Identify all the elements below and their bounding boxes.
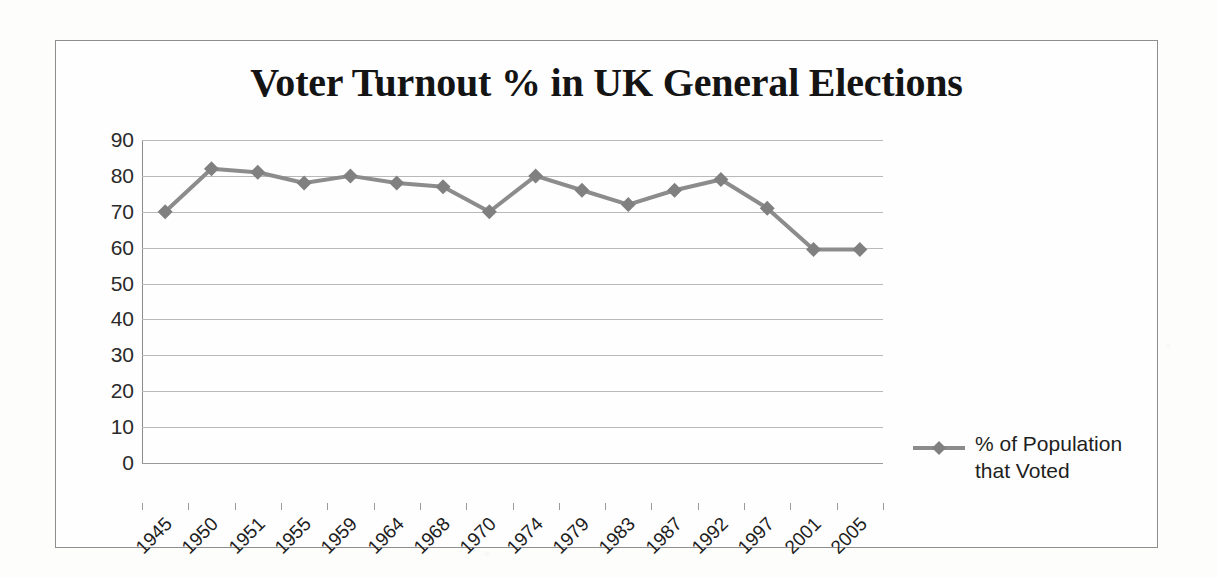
data-point-marker [667,183,682,198]
data-point-marker [250,165,265,180]
data-point-marker [297,176,312,191]
data-point-marker [389,176,404,191]
x-tick-1951 [235,503,236,510]
x-axis-ticks [142,503,883,511]
legend-label: % of Population that Voted [975,431,1153,485]
x-tick-1970 [466,503,467,510]
x-tick-label-1992: 1992 [687,513,732,558]
y-axis-labels: 9080706050403020100 [56,41,134,547]
series-line [165,169,860,250]
series-line-chart [142,140,883,463]
x-tick-label-1997: 1997 [734,513,779,558]
x-tick-label-2005: 2005 [826,513,871,558]
x-tick-2001 [790,503,791,510]
x-tick-label-1968: 1968 [409,513,454,558]
x-tick-1997 [744,503,745,510]
y-tick-label-60: 60 [88,236,134,260]
diamond-line-marker-icon [911,440,967,456]
x-tick-label-2001: 2001 [780,513,825,558]
y-tick-label-20: 20 [88,379,134,403]
x-tick-1974 [513,503,514,510]
chart-title: Voter Turnout % in UK General Elections [56,59,1157,106]
x-tick-1959 [327,503,328,510]
y-tick-label-90: 90 [88,128,134,152]
x-tick-label-1979: 1979 [548,513,593,558]
x-tick-label-1950: 1950 [178,513,223,558]
y-tick-label-70: 70 [88,200,134,224]
y-tick-label-80: 80 [88,164,134,188]
plot-area [142,140,883,463]
x-tick-label-1959: 1959 [317,513,362,558]
x-tick-2005 [837,503,838,510]
x-tick-label-1970: 1970 [456,513,501,558]
y-tick-label-0: 0 [88,451,134,475]
x-tick-label-1983: 1983 [595,513,640,558]
x-tick-1955 [281,503,282,510]
x-tick-label-1974: 1974 [502,513,547,558]
x-axis-labels: 1945195019511955195919641968197019741979… [56,513,1157,577]
x-tick-end [883,503,884,510]
y-tick-label-10: 10 [88,415,134,439]
x-tick-1968 [420,503,421,510]
data-point-marker [436,179,451,194]
x-tick-1992 [698,503,699,510]
data-point-marker [621,197,636,212]
x-tick-label-1951: 1951 [224,513,269,558]
x-tick-label-1964: 1964 [363,513,408,558]
data-point-marker [343,168,358,183]
x-tick-label-1945: 1945 [132,513,177,558]
y-tick-label-30: 30 [88,343,134,367]
data-point-marker [852,242,867,257]
x-tick-1987 [651,503,652,510]
y-tick-label-50: 50 [88,272,134,296]
x-tick-label-1987: 1987 [641,513,686,558]
x-tick-label-1955: 1955 [270,513,315,558]
x-tick-1945 [142,503,143,510]
x-tick-1983 [605,503,606,510]
x-tick-1950 [188,503,189,510]
x-tick-1979 [559,503,560,510]
x-tick-1964 [374,503,375,510]
data-point-marker [574,183,589,198]
gridline-0 [142,463,883,464]
legend: % of Population that Voted [911,431,1153,485]
chart-container: Voter Turnout % in UK General Elections … [55,40,1158,548]
y-tick-label-40: 40 [88,307,134,331]
